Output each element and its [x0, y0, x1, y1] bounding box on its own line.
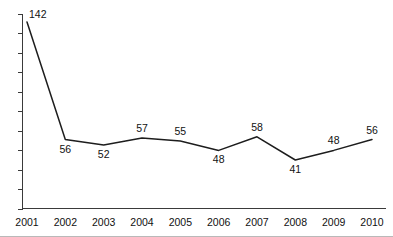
data-point-label: 48 — [328, 134, 340, 146]
x-tick-label: 2007 — [245, 216, 269, 228]
data-point-label: 58 — [251, 121, 263, 133]
data-point-label: 56 — [366, 124, 378, 136]
data-label-group: 142565257554858414856 — [29, 8, 378, 175]
x-tick-label: 2002 — [54, 216, 78, 228]
y-axis — [18, 14, 23, 210]
data-point-label: 142 — [29, 8, 47, 20]
data-point-label: 56 — [59, 143, 71, 155]
x-tick-label: 2008 — [284, 216, 308, 228]
x-tick-label: 2001 — [15, 216, 39, 228]
x-tick-label: 2005 — [169, 216, 193, 228]
x-tick-label: 2009 — [322, 216, 346, 228]
data-point-label: 57 — [136, 122, 148, 134]
data-point-label: 48 — [213, 153, 225, 165]
data-series-line — [27, 22, 372, 160]
x-tick-label-group: 2001200220032004200520062007200820092010 — [15, 216, 384, 228]
data-point-label: 55 — [174, 125, 186, 137]
x-tick-label: 2010 — [360, 216, 384, 228]
chart-plot-area: 142565257554858414856 200120022003200420… — [0, 0, 393, 237]
x-tick-label: 2003 — [92, 216, 116, 228]
line-chart: 142565257554858414856 200120022003200420… — [0, 0, 393, 237]
x-tick-label: 2004 — [130, 216, 154, 228]
data-point-label: 41 — [289, 163, 301, 175]
x-tick-label: 2006 — [207, 216, 231, 228]
data-point-label: 52 — [98, 148, 110, 160]
y-axis-tick-group — [18, 15, 23, 210]
